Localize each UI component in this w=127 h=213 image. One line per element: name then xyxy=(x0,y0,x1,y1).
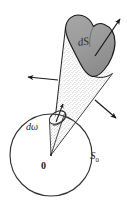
normal-arrow-left xyxy=(28,77,58,80)
origin-point xyxy=(50,154,52,156)
label-d-omega: dω xyxy=(26,122,38,132)
label-dS: dS xyxy=(77,35,89,47)
label-S0-subscript: 0 xyxy=(96,156,100,164)
label-origin: 0 xyxy=(41,161,46,171)
figure-canvas: dS dω S0 0 xyxy=(0,0,127,213)
solid-angle-diagram-svg xyxy=(0,0,127,213)
label-S0: S0 xyxy=(90,150,99,164)
normal-arrow-lower-right xyxy=(95,100,116,118)
